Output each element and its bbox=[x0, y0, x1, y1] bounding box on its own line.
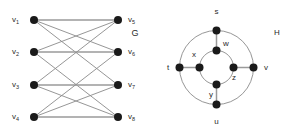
graph-g-node-v7[interactable] bbox=[114, 81, 122, 89]
graph-g-label-v6: v6 bbox=[128, 47, 135, 57]
graph-h-node-s[interactable] bbox=[213, 27, 221, 35]
graph-h-node-x[interactable] bbox=[196, 64, 204, 72]
graph-h-label-y: y bbox=[209, 90, 213, 99]
graph-g-node-v2[interactable] bbox=[30, 48, 38, 56]
graph-h-label-u: u bbox=[214, 117, 218, 126]
graph-g-node-v8[interactable] bbox=[114, 113, 122, 121]
graph-g-title: G bbox=[131, 28, 138, 38]
graph-g-sub-v3: 3 bbox=[16, 84, 19, 90]
graph-g-edges bbox=[34, 20, 118, 117]
graph-h-node-z[interactable] bbox=[230, 64, 238, 72]
graph-h-nodes: svutwzyx bbox=[167, 7, 268, 126]
graph-h-node-u[interactable] bbox=[213, 101, 221, 109]
graph-figure: v1v2v3v4v5v6v7v8GsvutwzyxH bbox=[0, 0, 298, 134]
graph-h-outer-arc-s-v bbox=[217, 31, 254, 68]
graph-h-label-s: s bbox=[215, 7, 219, 16]
graph-g-label-v4: v4 bbox=[12, 112, 19, 122]
graph-g-node-v5[interactable] bbox=[114, 16, 122, 24]
graph-g-sub-v5: 5 bbox=[132, 19, 135, 25]
graph-h-node-w[interactable] bbox=[213, 47, 221, 55]
graph-g-label-v2: v2 bbox=[12, 47, 19, 57]
graph-h-label-x: x bbox=[192, 50, 196, 59]
graph-g-sub-v4: 4 bbox=[16, 116, 19, 122]
graph-h-label-t: t bbox=[167, 63, 170, 72]
graph-h-node-y[interactable] bbox=[213, 81, 221, 89]
graph-h-label-z: z bbox=[232, 73, 236, 82]
graph-g-sub-v7: 7 bbox=[132, 84, 135, 90]
graph-g-node-v1[interactable] bbox=[30, 16, 38, 24]
graph-g-sub-v6: 6 bbox=[132, 51, 135, 57]
graph-g-label-v5: v5 bbox=[128, 15, 135, 25]
graph-h-edges bbox=[180, 31, 254, 105]
graph-h-label-v: v bbox=[264, 63, 268, 72]
graph-g-node-v3[interactable] bbox=[30, 81, 38, 89]
graph-g-label-v7: v7 bbox=[128, 80, 135, 90]
graph-g-node-v4[interactable] bbox=[30, 113, 38, 121]
graph-g-label-v1: v1 bbox=[12, 15, 19, 25]
graph-g-sub-v1: 1 bbox=[16, 19, 19, 25]
graph-g-sub-v2: 2 bbox=[16, 51, 19, 57]
graph-g-nodes: v1v2v3v4v5v6v7v8 bbox=[12, 15, 135, 122]
graph-h-title: H bbox=[274, 28, 280, 37]
graph-h-node-t[interactable] bbox=[176, 64, 184, 72]
graph-g-sub-v8: 8 bbox=[132, 116, 135, 122]
graph-g-label-v8: v8 bbox=[128, 112, 135, 122]
graph-g-label-v3: v3 bbox=[12, 80, 19, 90]
graph-h-label-w: w bbox=[222, 39, 229, 48]
graph-h-outer-arc-t-s bbox=[180, 31, 217, 68]
graph-h-node-v[interactable] bbox=[250, 64, 258, 72]
figure-canvas: v1v2v3v4v5v6v7v8GsvutwzyxH bbox=[0, 0, 298, 134]
graph-g-node-v6[interactable] bbox=[114, 48, 122, 56]
